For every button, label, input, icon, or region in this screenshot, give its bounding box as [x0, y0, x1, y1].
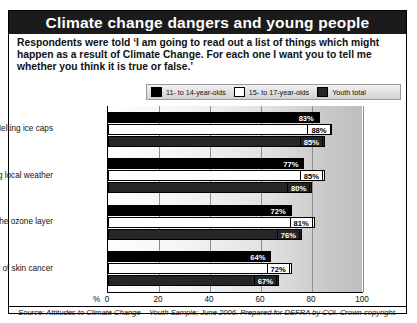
- bar[interactable]: [108, 170, 325, 181]
- bar-value-label: 72%: [267, 205, 290, 216]
- bar[interactable]: [108, 158, 304, 169]
- x-axis-line: [107, 292, 363, 293]
- legend-swatch-icon: [151, 87, 162, 97]
- source-divider: [9, 306, 406, 307]
- bar[interactable]: [108, 112, 320, 123]
- chart-legend: 11- to 14-year-olds15- to 17-year-oldsYo…: [146, 84, 401, 100]
- bar[interactable]: [108, 217, 315, 228]
- x-tick-label: 20: [153, 295, 162, 304]
- legend-swatch-icon: [317, 87, 328, 97]
- category-label: A hole in the ozone layer: [0, 217, 53, 226]
- figure-container: Climate change dangers and young people …: [8, 10, 407, 314]
- x-tick-label: 0: [105, 295, 110, 304]
- bar-value-label: 80%: [287, 182, 310, 193]
- bar-value-label: 81%: [290, 217, 313, 228]
- legend-item-label: 11- to 14-year-olds: [166, 88, 226, 97]
- bar-value-label: 72%: [267, 263, 290, 274]
- bar[interactable]: [108, 182, 312, 193]
- bar-value-label: 64%: [246, 251, 269, 262]
- x-tick-label: 80: [306, 295, 315, 304]
- bar[interactable]: [108, 205, 292, 216]
- bar-value-label: 77%: [279, 158, 302, 169]
- bar-value-label: 85%: [300, 136, 323, 147]
- bar-value-label: 67%: [254, 275, 277, 286]
- source-note: Source: Attitudes to Climate Change – Yo…: [9, 308, 406, 317]
- legend-item[interactable]: Youth total: [317, 87, 366, 97]
- bar[interactable]: [108, 229, 302, 240]
- x-tick-label: 60: [255, 295, 264, 304]
- legend-item[interactable]: 15- to 17-year-olds: [234, 87, 309, 97]
- title-bar: Climate change dangers and young people: [9, 11, 406, 34]
- bar[interactable]: [108, 124, 332, 135]
- category-label: Melting ice caps: [0, 124, 53, 133]
- bar-value-label: 76%: [277, 229, 300, 240]
- legend-item-label: 15- to 17-year-olds: [249, 88, 309, 97]
- category-label: Changing local weather: [0, 171, 53, 180]
- axis-unit-label: %: [93, 295, 100, 304]
- bar[interactable]: [108, 136, 325, 147]
- category-label: Increased risk of skin cancer: [0, 264, 53, 273]
- bar-value-label: 83%: [295, 112, 318, 123]
- legend-swatch-icon: [234, 87, 245, 97]
- bar-value-label: 85%: [300, 170, 323, 181]
- legend-item-label: Youth total: [332, 88, 366, 97]
- bar-value-label: 88%: [307, 124, 330, 135]
- intro-paragraph: Respondents were told ‘I am going to rea…: [17, 37, 402, 73]
- page-title: Climate change dangers and young people: [9, 11, 406, 34]
- x-tick-label: 40: [204, 295, 213, 304]
- x-tick-label: 100: [355, 295, 369, 304]
- gridline: [363, 106, 364, 292]
- legend-item[interactable]: 11- to 14-year-olds: [151, 87, 226, 97]
- bar[interactable]: [108, 263, 292, 274]
- plot-area: 83%88%85%77%85%80%72%81%76%64%72%67%: [107, 106, 362, 292]
